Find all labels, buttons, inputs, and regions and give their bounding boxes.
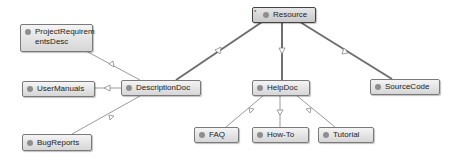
node-howto[interactable]: How-To — [252, 127, 309, 143]
node-resource[interactable]: * Resource — [252, 7, 316, 23]
class-icon — [257, 85, 263, 91]
arrowhead-icon — [104, 85, 110, 91]
node-projectrequirementsdesc[interactable]: ProjectRequirem entsDesc — [20, 24, 93, 52]
node-descriptiondoc[interactable]: DescriptionDoc — [121, 80, 201, 96]
class-icon — [27, 86, 33, 92]
class-icon — [323, 132, 329, 138]
class-icon — [263, 12, 269, 18]
arrowhead-icon — [109, 115, 114, 120]
node-label-line2: entsDesc — [35, 37, 95, 47]
class-icon — [257, 132, 263, 138]
class-icon — [27, 140, 33, 146]
node-usermanuals[interactable]: UserManuals — [22, 81, 95, 97]
arrowhead-icon — [277, 110, 283, 115]
arrowhead-icon — [249, 108, 254, 113]
node-tutorial[interactable]: Tutorial — [318, 127, 374, 143]
node-label: BugReports — [37, 138, 79, 148]
node-sourcecode[interactable]: SourceCode — [370, 79, 440, 95]
node-label: HelpDoc — [267, 83, 298, 93]
node-label: DescriptionDoc — [136, 83, 190, 93]
edge-bugreports-descriptiondoc — [72, 96, 140, 134]
class-icon — [126, 85, 132, 91]
node-label: ProjectRequirem entsDesc — [35, 27, 95, 47]
node-label: FAQ — [209, 130, 225, 140]
node-faq[interactable]: FAQ — [194, 127, 239, 143]
edge-tutorial-helpdoc — [296, 95, 335, 127]
node-bugreports[interactable]: BugReports — [22, 134, 92, 151]
node-label: UserManuals — [37, 84, 84, 94]
edge-faq-helpdoc — [226, 95, 264, 127]
node-label: SourceCode — [385, 82, 429, 92]
arrowhead-icon — [279, 48, 285, 54]
class-icon — [199, 132, 205, 138]
node-label-line1: ProjectRequirem — [35, 27, 95, 37]
node-label: How-To — [267, 130, 294, 140]
class-icon — [25, 29, 31, 35]
arrowhead-icon — [306, 108, 311, 113]
node-label: Resource — [273, 10, 307, 20]
root-marker-icon: * — [254, 7, 256, 17]
class-icon — [375, 84, 381, 90]
arrowhead-icon — [109, 61, 114, 67]
node-label: Tutorial — [333, 130, 359, 140]
node-helpdoc[interactable]: HelpDoc — [252, 80, 310, 96]
